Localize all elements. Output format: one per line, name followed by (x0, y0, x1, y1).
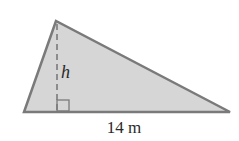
height-label: h (61, 62, 70, 82)
base-label: 14 m (107, 118, 141, 137)
triangle (24, 21, 230, 112)
triangle-diagram: h 14 m (0, 0, 239, 141)
